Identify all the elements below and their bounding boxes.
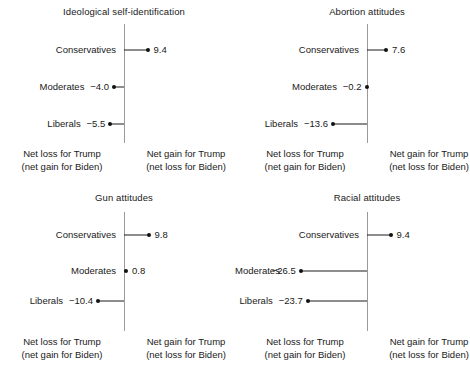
category-label-liberals: Liberals bbox=[235, 296, 273, 306]
stem-line bbox=[301, 271, 367, 272]
category-label-moderates: Moderates bbox=[0, 82, 84, 92]
category-label-conservatives: Conservatives bbox=[235, 45, 359, 55]
figure-small-multiples: Ideological self-identification9.4Conser… bbox=[0, 0, 470, 375]
footer-net-gain-trump: Net gain for Trump(net loss for Biden) bbox=[389, 335, 469, 361]
data-point-marker bbox=[124, 269, 128, 273]
category-label-moderates: Moderates bbox=[235, 266, 266, 276]
value-label: −0.2 bbox=[343, 82, 362, 92]
category-label-moderates: Moderates bbox=[0, 266, 116, 276]
footer-net-gain-trump: Net gain for Trump(net loss for Biden) bbox=[146, 147, 226, 173]
footer-net-loss-trump: Net loss for Trump(net gain for Biden) bbox=[22, 335, 103, 361]
stem-line bbox=[124, 50, 148, 51]
category-label-liberals: Liberals bbox=[0, 119, 81, 129]
footer-left-line1: Net loss for Trump bbox=[22, 335, 103, 348]
panel-title: Racial attitudes bbox=[334, 192, 401, 203]
data-point-marker bbox=[108, 122, 112, 126]
footer-net-loss-trump: Net loss for Trump(net gain for Biden) bbox=[265, 147, 346, 173]
data-point-marker bbox=[112, 85, 116, 89]
zero-axis-line bbox=[367, 212, 368, 331]
value-label: 9.4 bbox=[397, 230, 410, 240]
footer-right-line1: Net gain for Trump bbox=[389, 147, 469, 160]
footer-left-line2: (net gain for Biden) bbox=[265, 348, 346, 361]
stem-line bbox=[110, 124, 124, 125]
value-label: −13.6 bbox=[304, 119, 328, 129]
category-label-conservatives: Conservatives bbox=[235, 230, 359, 240]
stem-line bbox=[367, 235, 391, 236]
data-point-marker bbox=[306, 299, 310, 303]
data-point-marker bbox=[384, 48, 388, 52]
zero-axis-line bbox=[367, 24, 368, 143]
category-label-conservatives: Conservatives bbox=[0, 45, 116, 55]
value-label: 0.8 bbox=[132, 266, 145, 276]
footer-right-line1: Net gain for Trump bbox=[389, 335, 469, 348]
zero-axis-line bbox=[124, 24, 125, 143]
value-label: 7.6 bbox=[392, 45, 405, 55]
stem-line bbox=[124, 235, 149, 236]
data-point-marker bbox=[331, 122, 335, 126]
value-label: 9.4 bbox=[154, 45, 167, 55]
value-label: 9.8 bbox=[155, 230, 168, 240]
footer-left-line2: (net gain for Biden) bbox=[22, 160, 103, 173]
panel-title: Ideological self-identification bbox=[63, 6, 185, 17]
footer-left-line1: Net loss for Trump bbox=[22, 147, 103, 160]
stem-line bbox=[98, 301, 124, 302]
footer-net-loss-trump: Net loss for Trump(net gain for Biden) bbox=[22, 147, 103, 173]
category-label-liberals: Liberals bbox=[235, 119, 298, 129]
footer-right-line1: Net gain for Trump bbox=[146, 335, 226, 348]
data-point-marker bbox=[96, 299, 100, 303]
data-point-marker bbox=[146, 48, 150, 52]
value-label: −5.5 bbox=[86, 119, 105, 129]
data-point-marker bbox=[389, 233, 393, 237]
category-label-moderates: Moderates bbox=[235, 82, 337, 92]
footer-left-line1: Net loss for Trump bbox=[265, 335, 346, 348]
panel-2: Abortion attitudes7.6Conservatives−0.2Mo… bbox=[235, 0, 470, 188]
footer-net-gain-trump: Net gain for Trump(net loss for Biden) bbox=[389, 147, 469, 173]
value-label: −23.7 bbox=[279, 296, 303, 306]
footer-left-line1: Net loss for Trump bbox=[265, 147, 346, 160]
footer-net-gain-trump: Net gain for Trump(net loss for Biden) bbox=[146, 335, 226, 361]
panel-4: Racial attitudes9.4Conservatives−26.5Mod… bbox=[235, 188, 470, 375]
data-point-marker bbox=[365, 85, 369, 89]
footer-right-line2: (net loss for Biden) bbox=[389, 160, 469, 173]
footer-right-line2: (net loss for Biden) bbox=[146, 160, 226, 173]
category-label-liberals: Liberals bbox=[0, 296, 63, 306]
footer-net-loss-trump: Net loss for Trump(net gain for Biden) bbox=[265, 335, 346, 361]
footer-left-line2: (net gain for Biden) bbox=[22, 348, 103, 361]
panel-3: Gun attitudes9.8Conservatives0.8Moderate… bbox=[0, 188, 235, 375]
data-point-marker bbox=[147, 233, 151, 237]
footer-right-line1: Net gain for Trump bbox=[146, 147, 226, 160]
footer-right-line2: (net loss for Biden) bbox=[146, 348, 226, 361]
panel-1: Ideological self-identification9.4Conser… bbox=[0, 0, 235, 188]
category-label-conservatives: Conservatives bbox=[0, 230, 116, 240]
panel-title: Gun attitudes bbox=[95, 192, 153, 203]
value-label: −10.4 bbox=[69, 296, 93, 306]
value-label: −4.0 bbox=[90, 82, 109, 92]
footer-left-line2: (net gain for Biden) bbox=[265, 160, 346, 173]
footer-right-line2: (net loss for Biden) bbox=[389, 348, 469, 361]
stem-line bbox=[308, 301, 367, 302]
stem-line bbox=[333, 124, 367, 125]
data-point-marker bbox=[299, 269, 303, 273]
panel-title: Abortion attitudes bbox=[329, 6, 405, 17]
